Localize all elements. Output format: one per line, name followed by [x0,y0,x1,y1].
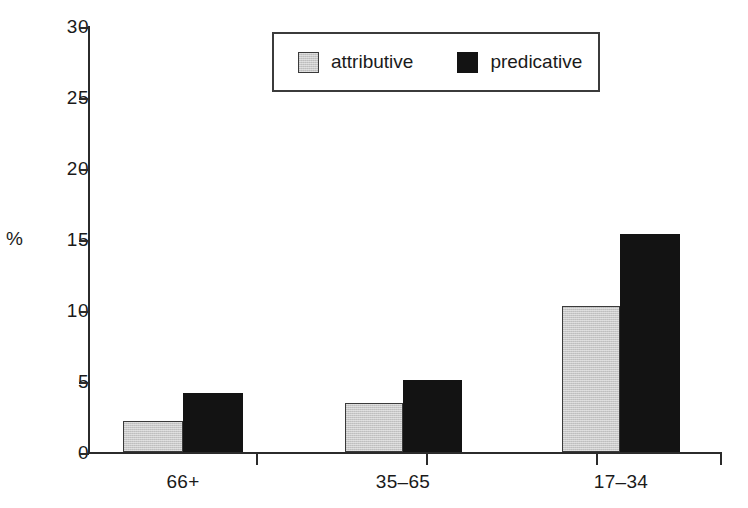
y-axis-unit-label: % [6,229,23,248]
y-tick-mark-20 [79,169,89,171]
y-tick-mark-10 [79,311,89,313]
bar-attributive-17-34 [562,306,620,452]
black-swatch-icon [457,52,478,73]
x-tick-mark-3 [596,454,598,465]
y-tick-mark-0 [79,453,89,455]
x-category-label-1: 66+ [123,472,243,492]
y-tick-mark-15 [79,240,89,242]
x-axis-line [88,452,722,454]
x-tick-mark-1 [256,454,258,465]
legend-label-attributive: attributive [331,52,413,72]
bar-predicative-17-34 [620,234,680,452]
y-tick-mark-30 [79,27,89,29]
legend-entry-predicative: predicative [457,34,582,90]
bar-attributive-66plus [123,421,183,452]
y-tick-mark-5 [79,382,89,384]
x-category-label-3: 17–34 [561,472,681,492]
y-tick-mark-25 [79,98,89,100]
x-tick-mark-4 [720,454,722,465]
legend: attributive predicative [272,32,600,92]
gray-swatch-icon [298,52,319,73]
legend-entry-attributive: attributive [298,34,413,90]
legend-label-predicative: predicative [490,52,582,72]
x-category-label-2: 35–65 [343,472,463,492]
x-tick-mark-2 [426,454,428,465]
bar-attributive-35-65 [345,403,403,452]
bar-predicative-66plus [183,393,243,452]
bar-predicative-35-65 [403,380,462,452]
bar-chart: % 30 25 20 15 10 5 0 66+ 35–65 17–34 [0,0,748,508]
